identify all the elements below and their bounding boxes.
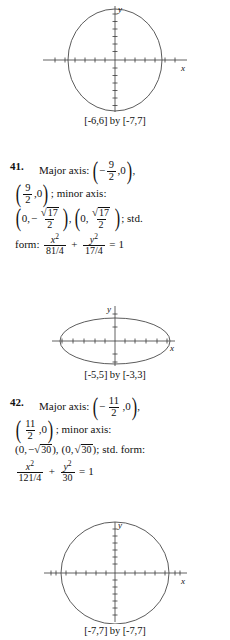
problem-41-major1-sign: − [99,165,105,177]
problem-41-major-axis-label: Major axis: [39,165,89,177]
paren-open-icon: ( [93,161,98,181]
problem-41-line-2: ( 9 2 , 0 ) ; minor axis: [15,183,227,205]
problem-42-major2-y: 0 [42,424,48,436]
problem-42-minor2-post: ); [93,444,100,456]
paren-close-icon: ) [63,208,68,228]
paren-close-icon: ) [48,420,53,440]
problem-41-line-3: ( 0, − √ 17 2 ) , ( 0, [15,207,227,230]
problem-41-major2-fraction: 9 2 [23,183,32,205]
paren-close-icon: ) [114,208,119,228]
problem-42-form-x-fraction: x2 121/4 [17,460,44,483]
graph-mid-plot: x y [35,300,195,368]
problem-41-major2-y: 0 [37,188,43,200]
problem-41-number: 41. [10,160,24,172]
graph-bottom-plot: x y [30,518,200,624]
paren-open-icon: ( [16,420,21,440]
paren-close-icon: ) [131,397,136,417]
problem-41-std-tail: ; std. [121,213,142,225]
numerator: x2 [49,233,61,245]
graph-mid: x y [-5,5] by [-3,3] [0,300,230,380]
problem-42-form-y-fraction: y2 30 [61,460,75,483]
radical-icon: √ 17 [41,207,59,219]
paren-open-icon: ( [93,397,98,417]
exponent: 2 [55,232,59,241]
graph-bottom-y-label: y [117,520,122,530]
problem-42-major2-fraction: 11 2 [23,419,37,441]
problem-42-line-3: (0, − √ 30 ), (0, √ 30 ); std. form: [15,444,227,456]
problem-41-minor1-x: 0, [22,213,30,225]
problem-41-minor2-x: 0, [80,213,88,225]
problem-42-number: 42. [10,396,24,408]
graph-top: x y [-6,6] by [-7,7] [0,2,230,126]
problem-42-major1-y: 0 [125,401,131,413]
denominator: 2 [109,407,118,419]
denominator: 2 [23,194,32,206]
graph-top-y-label: y [117,4,122,14]
exponent: 2 [94,232,98,241]
radicand: 17 [47,207,59,219]
graph-mid-x-label: x [169,343,174,353]
equals-icon: = [79,466,85,478]
denominator: 2 [26,430,35,442]
numerator: √ 17 [90,207,112,219]
graph-bottom-caption: [-7,7] by [-7,7] [0,625,230,636]
denominator: 2 [107,171,116,183]
numerator: 11 [107,396,121,407]
problem-42-minor1-pre: (0, [15,444,27,456]
paren-open-icon: ( [74,208,79,228]
problem-41-major1-y: 0 [120,165,126,177]
problem-41-minor2-fraction: √ 17 2 [90,207,112,230]
problem-41-form-label: form: [15,239,39,251]
radicand: 30 [81,444,93,456]
numerator: y2 [88,233,100,245]
problem-41-major1-fraction: 9 2 [107,160,116,182]
denominator: 121/4 [17,472,44,483]
numerator: √ 17 [39,207,61,219]
radical-icon: √ 30 [75,444,93,456]
problem-42-minor1-post: ), [52,444,58,456]
graph-top-x-label: x [180,63,185,73]
problem-42: 42. Major axis: ( − 11 2 , 0 ) , ( 11 [0,396,230,483]
problem-41-line-4: form: x2 81/4 + y2 17/4 = 1 [15,233,227,256]
problem-41-minor-sep: , [69,213,72,225]
graph-bottom-x-label: x [180,576,185,586]
denominator: 30 [61,472,75,483]
numerator: x2 [24,460,36,472]
plus-icon: + [49,466,55,478]
numerator: 11 [23,419,37,430]
textbook-answer-page: x y [-6,6] by [-7,7] 41. Major axis: ( −… [0,0,230,640]
problem-42-line-2: ( 11 2 , 0 ) ; minor axis: [15,419,227,441]
paren-close-icon: ) [43,184,48,204]
denominator: 2 [45,219,54,230]
problem-42-major1-fraction: 11 2 [107,396,121,418]
problem-41-minor1-fraction: √ 17 2 [39,207,61,230]
graph-bottom: x y [-7,7] by [-7,7] [0,518,230,636]
paren-close-icon: ) [126,161,131,181]
exponent: 2 [30,459,34,468]
radicand: 17 [98,207,110,219]
problem-42-std-form-label: std. form: [102,444,145,456]
problem-41-minor1-sign: − [31,213,37,225]
problem-42-minor-axis-label: ; minor axis: [56,424,112,436]
problem-42-line-4: x2 121/4 + y2 30 = 1 [15,460,227,483]
problem-42-major-axis-label: Major axis: [39,401,89,413]
graph-mid-caption: [-5,5] by [-3,3] [0,369,230,380]
radicand: 30 [40,444,52,456]
problem-41-form-x-fraction: x2 81/4 [44,233,66,256]
radical-icon: √ 17 [92,207,110,219]
denominator: 81/4 [44,245,66,256]
problem-41-minor-axis-label: ; minor axis: [51,188,107,200]
graph-mid-y-label: y [106,304,111,314]
equals-icon: = [109,239,115,251]
plus-icon: + [71,239,77,251]
radical-icon: √ 30 [34,444,52,456]
graph-top-plot: x y [35,2,195,114]
problem-42-form-rhs: 1 [88,466,94,478]
numerator: 9 [23,183,32,194]
paren-open-icon: ( [16,208,21,228]
problem-41-form-y-fraction: y2 17/4 [83,233,105,256]
problem-42-line1-comma: , [137,401,140,413]
problem-41-line-1: Major axis: ( − 9 2 , 0 ) , [39,160,227,182]
problem-41-line1-comma: , [132,165,135,177]
denominator: 17/4 [83,245,105,256]
